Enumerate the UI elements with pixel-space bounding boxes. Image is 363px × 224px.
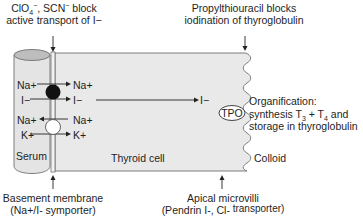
serum-label: Serum: [16, 150, 47, 162]
label-text: and: [328, 108, 348, 120]
label-text: transporter): [230, 203, 284, 214]
serum-cylinder-top: [14, 50, 50, 61]
na-cell-label: Na+: [73, 79, 93, 91]
label-text: iodination of thyroglobulin: [182, 14, 306, 26]
perchlorate-block-label: ClO4−, SCN− block active transport of I−: [4, 2, 104, 26]
apical-microvilli-label: Apical microvilli (Pendrin I-, Cl- trans…: [158, 192, 288, 217]
label-text: + T: [306, 108, 324, 120]
label-text: (Pendrin I-, Cl-: [162, 204, 230, 216]
iodide-serum-label: I−: [21, 94, 30, 106]
label-text: block: [69, 2, 96, 14]
na-serum-label: Na+: [17, 79, 37, 91]
basement-membrane-label: Basement membrane (Na+/I- symporter): [0, 192, 106, 216]
label-text: Organification:: [249, 95, 358, 108]
symporter-circle: [46, 85, 61, 100]
label-text: Propylthiouracil blocks: [182, 2, 306, 14]
label-text: active transport of I−: [4, 14, 104, 26]
iodide-cell-label: I−: [73, 94, 82, 106]
thyroid-cell-label: Thyroid cell: [111, 152, 165, 164]
k-serum-label: K+: [21, 129, 34, 141]
tpo-label: TPO: [219, 107, 245, 119]
colloid-label: Colloid: [254, 152, 286, 164]
apical-iodide-label: I−: [200, 94, 209, 106]
basement-membrane: [51, 52, 55, 172]
na-pump-serum-label: Na+: [17, 114, 37, 126]
ptu-block-label: Propylthiouracil blocks iodination of th…: [182, 2, 306, 26]
label-text: (Na+/I- symporter): [0, 204, 106, 216]
label-text: storage in thyroglobulin: [249, 120, 358, 133]
label-text: synthesis T: [249, 108, 302, 120]
label-text: ClO: [11, 2, 29, 14]
label-text: , SCN: [37, 2, 65, 14]
na-pump-cell-label: Na+: [73, 114, 93, 126]
pump-circle: [46, 120, 61, 135]
label-text: Basement membrane: [0, 192, 106, 204]
organification-label: Organification: synthesis T3 + T4 and st…: [249, 95, 358, 133]
k-cell-label: K+: [73, 129, 86, 141]
